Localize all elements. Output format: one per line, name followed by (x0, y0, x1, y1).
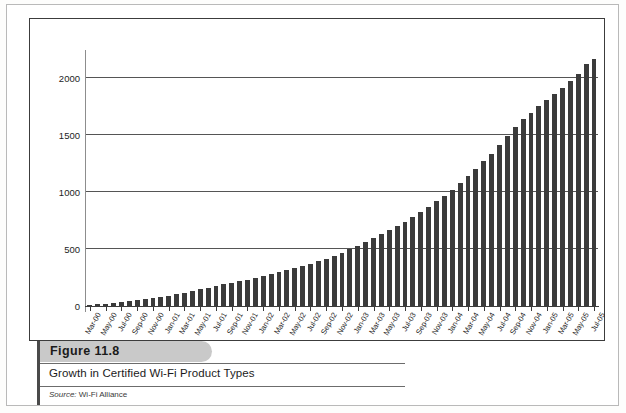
bar (221, 284, 226, 306)
figure-caption-block: Figure 11.8 Growth in Certified Wi-Fi Pr… (37, 341, 437, 407)
source-prefix: Source: (49, 390, 77, 399)
bar (418, 212, 423, 306)
figure-source: Source: Wi-Fi Alliance (49, 390, 127, 399)
bar (489, 154, 494, 306)
chart-frame: 0500100015002000 Mar-00May-00Jul-00Sep-0… (29, 18, 605, 341)
plot-area (86, 50, 598, 306)
y-tick-label: 500 (64, 244, 80, 255)
bar (395, 226, 400, 306)
bar (584, 64, 589, 306)
bar (300, 266, 305, 306)
bar (568, 81, 573, 306)
bar (529, 113, 534, 306)
bar (198, 289, 203, 306)
bar (403, 222, 408, 306)
bar (379, 234, 384, 306)
gridline (86, 77, 598, 78)
bar (450, 190, 455, 306)
bar (158, 297, 163, 306)
bar (466, 176, 471, 306)
bar (458, 183, 463, 306)
bar (174, 294, 179, 306)
source-value: Wi-Fi Alliance (77, 390, 128, 399)
bar (237, 281, 242, 306)
x-tick-label: Jul-05 (589, 311, 607, 333)
bar (269, 274, 274, 306)
bar (497, 145, 502, 306)
bar (143, 299, 148, 306)
bar (521, 119, 526, 306)
bar (316, 261, 321, 306)
bar (347, 249, 352, 306)
bar (206, 288, 211, 306)
bar (292, 268, 297, 306)
caption-rule-top (40, 363, 405, 364)
bar (332, 256, 337, 306)
bar (552, 94, 557, 306)
figure-title: Growth in Certified Wi-Fi Product Types (49, 367, 255, 379)
bar (544, 100, 549, 306)
bar (363, 242, 368, 306)
bar (245, 280, 250, 306)
bar (277, 272, 282, 306)
bar (229, 283, 234, 306)
bar (536, 106, 541, 306)
page-border: 0500100015002000 Mar-00May-00Jul-00Sep-0… (6, 4, 619, 406)
bar (481, 161, 486, 306)
bar (473, 169, 478, 306)
bar (387, 230, 392, 306)
bar (182, 293, 187, 306)
bar (284, 270, 289, 306)
caption-rule-bottom (40, 386, 405, 387)
bar (324, 259, 329, 306)
y-tick-label: 1500 (59, 130, 80, 141)
bar (371, 238, 376, 306)
y-tick-label: 2000 (59, 73, 80, 84)
bar (190, 291, 195, 306)
bar (560, 88, 565, 306)
y-axis-tick-labels: 0500100015002000 (30, 19, 80, 342)
figure-number-label: Figure 11.8 (50, 344, 120, 358)
bar (340, 253, 345, 306)
bar (355, 246, 360, 306)
bar (253, 278, 258, 306)
bar (513, 127, 518, 306)
bar (151, 298, 156, 306)
y-tick-label: 0 (75, 301, 80, 312)
bar (576, 74, 581, 306)
bar (592, 59, 597, 306)
bar (214, 286, 219, 306)
y-tick-label: 1000 (59, 187, 80, 198)
bar (426, 207, 431, 306)
bar (434, 201, 439, 306)
figure-page: 0500100015002000 Mar-00May-00Jul-00Sep-0… (0, 0, 626, 413)
bar (505, 136, 510, 306)
bar (442, 196, 447, 306)
bar (410, 217, 415, 306)
bar (261, 276, 266, 306)
bar (308, 264, 313, 306)
bar (166, 296, 171, 306)
